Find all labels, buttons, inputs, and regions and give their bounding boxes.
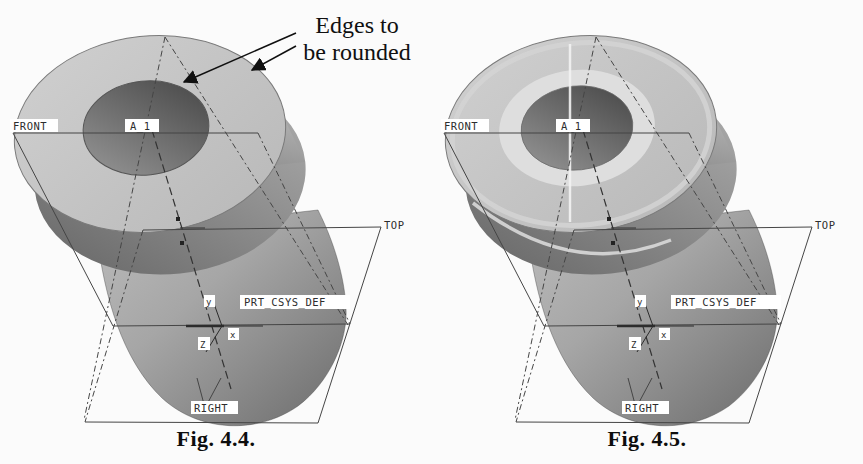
axis-a1-label: A_1 <box>561 120 581 133</box>
front-plane-label: FRONT <box>13 120 47 132</box>
axis-point-marker <box>611 241 615 245</box>
figure-4-4: y x Z FRONT A_1 TOP PRT_CSYS_DEF RIGHT <box>0 0 432 464</box>
csys-label: PRT_CSYS_DEF <box>244 296 326 309</box>
axis-a1-label: A_1 <box>130 120 150 133</box>
top-plane-far-edge <box>516 422 749 423</box>
part-model <box>5 22 347 425</box>
z-axis-label: Z <box>631 340 637 350</box>
x-axis-label: x <box>661 330 667 340</box>
annotation-line2: be rounded <box>283 39 431 66</box>
axis-point-marker <box>176 217 180 221</box>
y-axis-label: y <box>206 297 212 307</box>
x-axis-label: x <box>230 330 236 340</box>
cad-view-rounded-edges: y x Z FRONT A_1 TOP PRT_CSYS_DEF RIGHT <box>431 0 863 464</box>
cad-view-sharp-edges: y x Z FRONT A_1 TOP PRT_CSYS_DEF RIGHT <box>0 0 432 464</box>
right-plane-label: RIGHT <box>625 402 659 414</box>
annotation-line1: Edges to <box>283 12 431 39</box>
figure-caption: Fig. 4.4. <box>0 426 432 452</box>
figure-caption: Fig. 4.5. <box>431 426 863 452</box>
part-model <box>436 22 778 425</box>
axis-point-marker <box>607 217 611 221</box>
top-plane-label: TOP <box>384 219 404 231</box>
top-plane-label: TOP <box>815 219 835 231</box>
z-axis-label: Z <box>200 340 206 350</box>
csys-label: PRT_CSYS_DEF <box>675 296 757 309</box>
annotation-edges-to-be-rounded: Edges to be rounded <box>283 12 431 66</box>
front-plane-label: FRONT <box>444 120 478 132</box>
right-plane-label: RIGHT <box>194 402 228 414</box>
y-axis-label: y <box>637 297 643 307</box>
axis-point-marker <box>180 241 184 245</box>
top-plane-far-edge <box>85 422 318 423</box>
book-figure-page: y x Z FRONT A_1 TOP PRT_CSYS_DEF RIGHT <box>0 0 863 464</box>
figure-4-5: y x Z FRONT A_1 TOP PRT_CSYS_DEF RIGHT F… <box>431 0 863 464</box>
